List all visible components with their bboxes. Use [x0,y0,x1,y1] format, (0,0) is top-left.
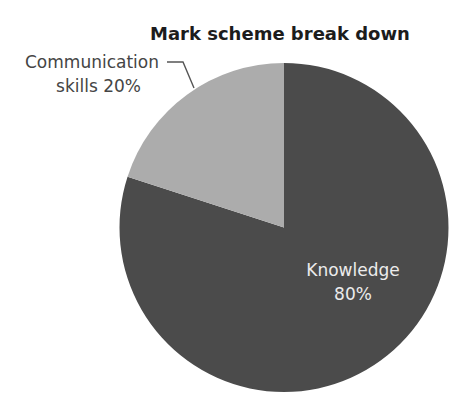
pie-chart: Mark scheme break down Communication ski… [0,0,474,408]
leader-line [167,62,194,88]
label-knowledge-line1: Knowledge [306,260,399,280]
chart-title: Mark scheme break down [150,23,410,44]
label-knowledge-line2: 80% [334,284,372,304]
label-communication-line2: skills 20% [56,76,141,96]
label-communication-line1: Communication [25,52,159,72]
